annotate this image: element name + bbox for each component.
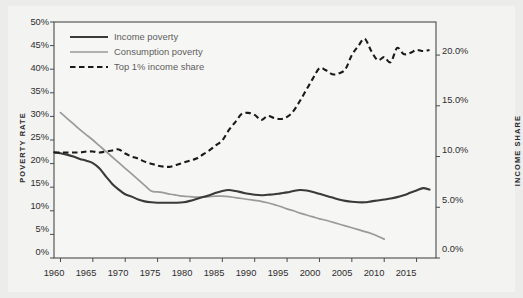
plot-frame xyxy=(54,22,436,258)
bottom-tick-marks xyxy=(60,258,416,262)
chart-figure: 50% 45% 40% 35% 30% 25% 20% 15% 10% 5% 0… xyxy=(0,0,523,298)
left-tick-marks xyxy=(50,22,54,258)
chart-paper: 50% 45% 40% 35% 30% 25% 20% 15% 10% 5% 0… xyxy=(8,6,515,292)
chart-plot-area xyxy=(8,6,515,292)
right-tick-marks xyxy=(436,55,440,258)
